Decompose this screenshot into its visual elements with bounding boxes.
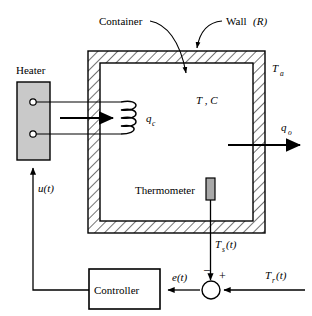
container-outer-edge (88, 51, 265, 233)
heat-out-subscript: o (288, 128, 292, 137)
summing-junction: – + (202, 262, 226, 299)
summing-junction-minus-sign: – (203, 262, 211, 276)
leader-line-icon-wall (197, 21, 222, 48)
sensor-signal: T s (t) (215, 238, 237, 254)
heater-terminal-bottom (30, 131, 36, 137)
leader-line-icon-container (150, 21, 186, 73)
summing-junction-circle (202, 281, 220, 299)
control-signal-label: u(t) (38, 182, 54, 195)
summing-junction-plus-sign: + (219, 269, 226, 283)
container-wall-hatching (88, 51, 265, 233)
heater-body (17, 82, 50, 160)
heater-terminal-top (30, 99, 36, 105)
container-inner-edge (100, 63, 253, 221)
heater: Heater (16, 64, 121, 160)
error-signal: e(t) (168, 271, 200, 290)
wall-parameter-label: (R) (253, 15, 267, 28)
coil-winding (121, 101, 136, 134)
reference-signal-subscript: r (272, 276, 275, 285)
controller-block: Controller (89, 269, 160, 309)
heater-label: Heater (16, 64, 46, 76)
reference-input: T r (t) (224, 269, 305, 290)
heat-out-label: q (281, 121, 287, 133)
sensor-signal-subscript: s (222, 245, 225, 254)
diagram-canvas: Container Wall (R) T a T , C Heater (0, 0, 312, 316)
thermal-control-diagram: Container Wall (R) T a T , C Heater (0, 0, 312, 316)
ambient-temperature: T a (272, 62, 284, 78)
error-signal-label: e(t) (172, 271, 188, 284)
sensor-signal-label: T (215, 238, 222, 250)
control-signal-path: u(t) (33, 168, 89, 290)
thermometer-body (206, 178, 215, 200)
wall-label: Wall (226, 15, 247, 27)
inside-state-label: T , C (196, 94, 218, 106)
controller-label: Controller (94, 284, 140, 296)
ambient-temp-subscript: a (280, 69, 284, 78)
container-callout: Container (99, 15, 186, 73)
reference-signal-label: T (265, 269, 272, 281)
ambient-temp-label: T (272, 62, 279, 74)
wall-callout: Wall (R) (197, 15, 267, 48)
thermometer-label: Thermometer (135, 184, 195, 196)
heating-coil: q c (60, 101, 156, 134)
container-vessel (88, 51, 265, 233)
sensor-signal-tail: (t) (226, 238, 237, 251)
container-label: Container (99, 15, 143, 27)
heat-in-subscript: c (152, 119, 156, 128)
reference-signal-tail: (t) (276, 269, 287, 282)
